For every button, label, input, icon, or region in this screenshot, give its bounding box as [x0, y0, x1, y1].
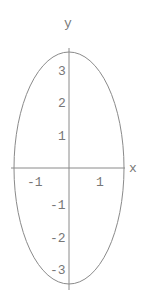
y-axis-label: y — [64, 16, 72, 31]
x-tick-label: 1 — [96, 175, 104, 190]
y-tick-label: 1 — [58, 129, 66, 144]
y-tick-label: -2 — [50, 231, 66, 246]
y-tick-label: -1 — [50, 198, 66, 213]
x-axis-label: x — [129, 161, 137, 176]
ellipse-plot: x y -1 1 3 2 1 -1 -2 -3 — [0, 0, 148, 293]
y-tick-label: -3 — [50, 263, 66, 278]
y-tick-label: 3 — [58, 64, 66, 79]
y-tick-label: 2 — [58, 96, 66, 111]
x-tick-label: -1 — [27, 175, 43, 190]
